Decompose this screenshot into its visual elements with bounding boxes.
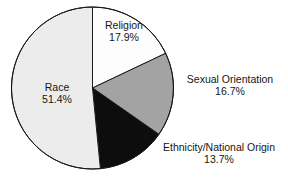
slice-label-ethnicity-national-origin: Ethnicity/National Origin 13.7% <box>152 142 286 166</box>
slice-label-sexual-orientation: Sexual Orientation 16.7% <box>174 74 286 98</box>
slice-label-race-value: 51.4% <box>26 94 88 106</box>
slice-label-religion-value: 17.9% <box>93 32 155 44</box>
slice-label-race: Race 51.4% <box>26 82 88 106</box>
slice-label-religion-name: Religion <box>93 20 155 32</box>
slice-label-race-name: Race <box>26 82 88 94</box>
slice-label-ethnicity-national-origin-name: Ethnicity/National Origin <box>152 142 286 154</box>
slice-label-sexual-orientation-name: Sexual Orientation <box>174 74 286 86</box>
slice-label-ethnicity-national-origin-value: 13.7% <box>152 154 286 166</box>
slice-label-religion: Religion 17.9% <box>93 20 155 44</box>
pie-chart: Religion 17.9% Sexual Orientation 16.7% … <box>0 0 288 184</box>
slice-label-sexual-orientation-value: 16.7% <box>174 86 286 98</box>
